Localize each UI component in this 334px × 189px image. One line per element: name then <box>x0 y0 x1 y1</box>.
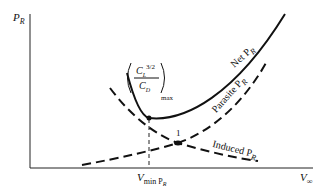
numerator-sup: 3/2 <box>146 63 155 71</box>
x-axis-label-main: V <box>300 171 307 183</box>
fraction-numerator: CL3/2 <box>136 64 155 78</box>
fraction-denominator: CD <box>139 81 150 93</box>
fraction-max: max <box>161 95 173 102</box>
vmin-label-main: V <box>137 171 144 183</box>
denominator-sub: D <box>146 87 150 93</box>
denominator-main: C <box>139 80 146 91</box>
min-power-point <box>147 116 152 121</box>
vmin-label: Vmin PR <box>137 172 166 187</box>
x-axis-label: V∞ <box>300 172 312 186</box>
x-axis-label-sub: ∞ <box>307 177 313 186</box>
vmin-label-sub: min P <box>144 177 163 186</box>
y-axis-label: PR <box>13 12 25 26</box>
numerator-sub: L <box>143 72 146 78</box>
right-paren <box>161 63 165 93</box>
y-axis-label-sub: R <box>20 17 25 26</box>
intersection-label: 1 <box>176 129 181 138</box>
y-axis-label-main: P <box>13 11 20 23</box>
numerator-main: C <box>136 65 143 76</box>
vmin-label-sub2: R <box>163 181 167 187</box>
intersection-point <box>174 141 182 146</box>
